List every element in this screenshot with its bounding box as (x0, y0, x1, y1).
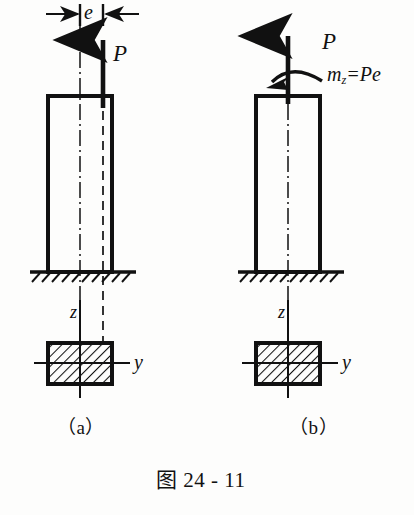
axis-label-y-a: y (134, 352, 143, 372)
figure-container: e P z y P mz=Pe z y （a） （b） 图 24 - 11 (0, 0, 414, 515)
axis-label-z-b: z (278, 303, 285, 321)
moment-label-b: mz=Pe (327, 64, 381, 87)
subcaption-b: （b） (289, 418, 338, 437)
moment-label-base: m (327, 63, 341, 85)
subcaption-a: （a） (57, 418, 105, 437)
moment-arc-b (272, 72, 322, 82)
eccentricity-label: e (84, 2, 93, 22)
ground-hatching-b (240, 273, 338, 282)
ground-hatching-a (32, 273, 130, 282)
moment-label-rest: =Pe (346, 63, 381, 85)
panel-b-group (238, 36, 344, 398)
force-label-a: P (113, 42, 127, 65)
figure-caption: 图 24 - 11 (156, 470, 245, 491)
axis-label-z-a: z (70, 303, 77, 321)
axis-label-y-b: y (342, 352, 351, 372)
force-label-b: P (322, 30, 336, 53)
